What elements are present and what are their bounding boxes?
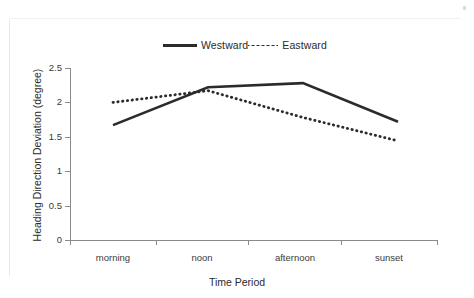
y-axis-title: Heading Direction Deviation (degree) (31, 55, 43, 255)
series-lines (0, 0, 474, 298)
line-eastward (113, 91, 398, 141)
plot-area: 2.5 2 1.5 1 0.5 0 morning noon afternoon… (0, 0, 474, 298)
chart-figure: Westward Eastward 2.5 2 1.5 1 0.5 0 morn… (0, 0, 474, 298)
x-axis-title: Time Period (0, 276, 474, 288)
